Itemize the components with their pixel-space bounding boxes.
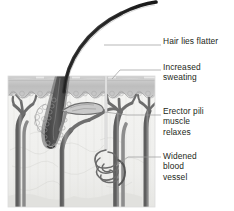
label-increased-sweating: Increased sweating: [163, 62, 229, 83]
label-hair-lies-flatter: Hair lies flatter: [163, 36, 234, 46]
label-erector-pili-muscle-relaxes: Erector pili muscle relaxes: [163, 106, 231, 137]
label-widened-blood-vessel: Widened blood vessel: [163, 151, 229, 182]
skin-diagram-figure: Hair lies flatter Increased sweating Ere…: [0, 0, 234, 211]
skin-block: [8, 75, 157, 210]
